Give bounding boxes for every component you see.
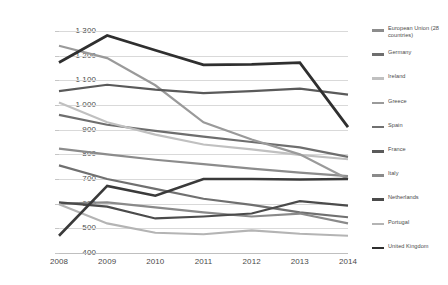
series-line	[59, 179, 348, 236]
legend-item-label: United Kingdom	[388, 243, 448, 250]
x-axis-tick-label: 2013	[280, 258, 320, 266]
legend-item-label: Netherlands	[388, 194, 448, 201]
legend-item[interactable]: Portugal	[372, 220, 448, 244]
series-lines	[59, 31, 348, 253]
series-line	[59, 201, 348, 218]
legend-color-swatch	[372, 53, 384, 56]
legend-item[interactable]: France	[372, 147, 448, 171]
legend-item[interactable]: Germany	[372, 50, 448, 74]
legend-item[interactable]: Spain	[372, 123, 448, 147]
legend-item[interactable]: United Kingdom	[372, 244, 448, 268]
series-line	[59, 204, 348, 236]
legend-color-swatch	[372, 223, 384, 226]
chart-legend: European Union (28 countries)GermanyIrel…	[372, 26, 448, 268]
legend-color-swatch	[372, 102, 384, 105]
legend-item-label: Greece	[388, 98, 448, 105]
legend-color-swatch	[372, 174, 384, 177]
x-axis-tick-label: 2010	[135, 258, 175, 266]
series-line	[59, 103, 348, 160]
x-axis-line	[59, 253, 348, 254]
legend-item-label: European Union (28 countries)	[388, 25, 448, 39]
legend-item[interactable]: European Union (28 countries)	[372, 26, 448, 50]
x-axis-tick-label: 2012	[232, 258, 272, 266]
legend-item[interactable]: Greece	[372, 99, 448, 123]
legend-item-label: Ireland	[388, 73, 448, 80]
legend-color-swatch	[372, 150, 384, 153]
x-axis-tick-label: 2014	[328, 258, 368, 266]
legend-item[interactable]: Netherlands	[372, 195, 448, 219]
series-line	[59, 85, 348, 95]
legend-item-label: Portugal	[388, 219, 448, 226]
legend-item-label: Germany	[388, 49, 448, 56]
legend-item[interactable]: Ireland	[372, 74, 448, 98]
legend-color-swatch	[372, 77, 384, 80]
series-line	[59, 35, 348, 127]
legend-item-label: France	[388, 146, 448, 153]
legend-color-swatch	[372, 29, 384, 32]
line-chart: 4005006007008009001 0001 1001 2001 300 2…	[0, 0, 448, 285]
series-line	[59, 149, 348, 176]
legend-item[interactable]: Italy	[372, 171, 448, 195]
x-axis-tick-label: 2011	[184, 258, 224, 266]
plot-area	[59, 31, 348, 253]
legend-item-label: Spain	[388, 122, 448, 129]
legend-item-label: Italy	[388, 170, 448, 177]
legend-color-swatch	[372, 126, 384, 129]
x-axis-tick-label: 2008	[39, 258, 79, 266]
x-axis-tick-label: 2009	[87, 258, 127, 266]
legend-color-swatch	[372, 247, 384, 250]
legend-color-swatch	[372, 198, 384, 201]
